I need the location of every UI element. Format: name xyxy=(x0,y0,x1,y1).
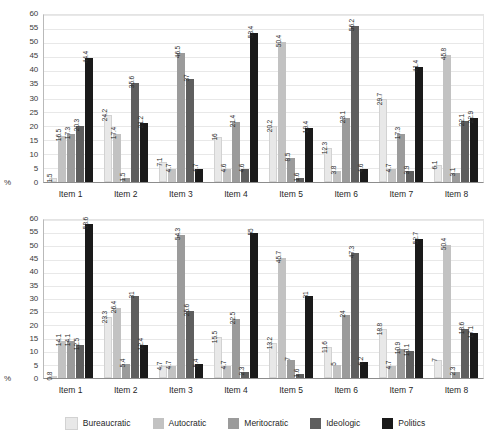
bar-value-label: 0.8 xyxy=(46,372,53,381)
bar: 5.4 xyxy=(122,364,130,378)
bar-slot: 14.1 xyxy=(67,220,75,378)
bar-slot: 5.4 xyxy=(122,220,130,378)
y-axis-unit-label: % xyxy=(4,375,11,383)
bar-value-label: 8.5 xyxy=(284,153,291,162)
bar: 0.8 xyxy=(49,376,57,378)
bar: 45.8 xyxy=(443,55,451,182)
bar-slot: 2.3 xyxy=(452,220,460,378)
bar-value-label: 55 xyxy=(247,229,254,236)
bar-value-label: 20.3 xyxy=(73,118,80,130)
bar: 25.6 xyxy=(186,311,194,378)
bar-slot: 7 xyxy=(287,220,295,378)
bar-slot: 13.2 xyxy=(269,220,277,378)
bar: 3.9 xyxy=(406,171,414,182)
bar-slot: 4.7 xyxy=(168,15,176,182)
bar: 41.4 xyxy=(415,67,423,182)
bar-slot: 17.4 xyxy=(113,15,121,182)
bar-value-label: 3.8 xyxy=(330,166,337,175)
x-axis-category-label: Item 7 xyxy=(374,381,429,399)
bar: 16.5 xyxy=(58,136,66,182)
bar-slot: 19.4 xyxy=(305,15,313,182)
y-tick-label: 35 xyxy=(30,282,39,290)
y-tick-label: 40 xyxy=(30,66,39,74)
bar-value-label: 26.4 xyxy=(110,301,117,313)
bar-slot: 23.1 xyxy=(342,15,350,182)
bar: 4.6 xyxy=(241,169,249,182)
bar: 16 xyxy=(214,137,222,182)
bar-slot: 41.4 xyxy=(415,15,423,182)
x-axis-category-label: Item 1 xyxy=(43,185,98,203)
y-tick-label: 0 xyxy=(34,375,38,383)
bar: 4.7 xyxy=(388,169,396,182)
bar-slot: 50.4 xyxy=(443,220,451,378)
bar-slot: 45.8 xyxy=(443,15,451,182)
bar: 31 xyxy=(305,296,313,378)
bar-value-label: 37 xyxy=(183,75,190,82)
bar-group: 20.250.48.51.619.4 xyxy=(264,15,319,182)
bar-group: 6.145.83.122.122.9 xyxy=(428,15,483,182)
legend-item[interactable]: Politics xyxy=(382,418,425,429)
x-axis-category-label: Item 2 xyxy=(98,185,153,203)
bar-group: 13.245.771.631 xyxy=(264,220,319,378)
bar-value-label: 14.1 xyxy=(64,334,71,346)
bar-slot: 4.6 xyxy=(223,15,231,182)
bar: 4.7 xyxy=(223,366,231,378)
bar-group: 750.42.318.617.1 xyxy=(428,220,483,378)
bar-value-label: 10.1 xyxy=(403,344,410,356)
bar: 53.4 xyxy=(250,33,258,182)
y-tick-label: 45 xyxy=(30,255,39,263)
y-tick-label: 60 xyxy=(30,215,39,223)
bar-slot: 23.3 xyxy=(104,220,112,378)
legend-item[interactable]: Ideologic xyxy=(310,418,360,429)
bar: 20.2 xyxy=(269,126,277,182)
bar: 21.4 xyxy=(232,122,240,182)
bar-value-label: 16 xyxy=(211,134,218,141)
x-axis-bottom: Item 1Item 2Item 3Item 4Item 5Item 6Item… xyxy=(43,381,484,399)
x-axis-top: Item 1Item 2Item 3Item 4Item 5Item 6Item… xyxy=(43,185,484,203)
bar-slot: 21.4 xyxy=(232,15,240,182)
legend-item[interactable]: Bureaucratic xyxy=(65,417,131,430)
bar-slot: 56.2 xyxy=(351,15,359,182)
x-axis-category-label: Item 4 xyxy=(208,381,263,399)
plot-wrapper-bottom: 051015202530354045505560% 0.814.114.112.… xyxy=(0,205,490,401)
y-tick-label: 5 xyxy=(34,165,38,173)
bar-slot: 18.6 xyxy=(461,220,469,378)
y-tick-label: 55 xyxy=(30,24,39,32)
bar: 2.3 xyxy=(241,372,249,378)
chart-panel-top: 051015202530354045505560% 1.516.517.320.… xyxy=(0,0,490,205)
y-tick-label: 15 xyxy=(30,335,39,343)
bar-value-label: 18.6 xyxy=(458,322,465,334)
plot-area-bottom: 0.814.114.112.558.623.326.45.43112.44.74… xyxy=(43,219,484,379)
bar-value-label: 12.3 xyxy=(321,142,328,154)
bar: 23.1 xyxy=(342,118,350,182)
x-axis-category-label: Item 3 xyxy=(153,185,208,203)
bar-slot: 55 xyxy=(250,220,258,378)
bar-slot: 4.6 xyxy=(360,15,368,182)
bar-slot: 16.5 xyxy=(58,15,66,182)
bar-group: 23.326.45.43112.4 xyxy=(99,220,154,378)
bar-slot: 58.6 xyxy=(85,220,93,378)
x-axis-category-label: Item 8 xyxy=(429,185,484,203)
legend-item[interactable]: Meritocratic xyxy=(228,418,288,429)
legend-item[interactable]: Autocratic xyxy=(153,418,207,429)
y-tick-label: 5 xyxy=(34,362,38,370)
bar-value-label: 17.3 xyxy=(394,127,401,139)
x-axis-category-label: Item 1 xyxy=(43,381,98,399)
bar: 44.4 xyxy=(85,58,93,182)
y-axis-top: 051015202530354045505560% xyxy=(0,14,42,183)
bar-slot: 24.2 xyxy=(104,15,112,182)
bar-value-label: 3.1 xyxy=(449,168,456,177)
bar-slot: 46.5 xyxy=(177,15,185,182)
bar-groups-top: 1.516.517.320.344.424.217.41.535.621.27.… xyxy=(44,15,483,182)
bar-slot: 3.9 xyxy=(406,15,414,182)
bar-value-label: 4.7 xyxy=(385,164,392,173)
bar: 22.1 xyxy=(461,121,469,183)
legend-swatch-icon xyxy=(382,418,393,429)
y-tick-label: 60 xyxy=(30,10,39,18)
legend-swatch-icon xyxy=(310,418,321,429)
bar-value-label: 17.3 xyxy=(64,127,71,139)
bar: 6.2 xyxy=(360,362,368,378)
bar-value-label: 1.6 xyxy=(293,368,300,377)
bar-slot: 7.1 xyxy=(159,15,167,182)
bar: 5 xyxy=(333,365,341,378)
